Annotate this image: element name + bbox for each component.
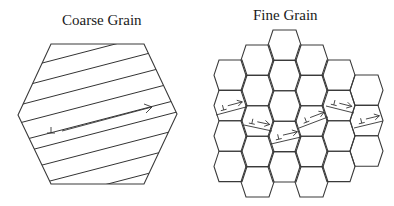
slip-arrow-icon (354, 114, 383, 128)
slip-arrow-icon (299, 111, 328, 128)
slip-arrow-icon (244, 119, 272, 131)
slip-arrow-icon (216, 100, 246, 115)
diagram-canvas (0, 0, 394, 206)
slip-lines (0, 22, 200, 206)
fine-grain-cell (350, 136, 383, 166)
fine-grain-honeycomb (214, 30, 383, 197)
slip-arrow-icon (326, 100, 354, 113)
coarse-grain-boundary (18, 44, 177, 184)
fine-grain-cell (350, 105, 383, 135)
fine-grain-cell (350, 75, 383, 105)
slip-arrow-icon (271, 130, 301, 144)
coarse-grain (0, 22, 200, 206)
